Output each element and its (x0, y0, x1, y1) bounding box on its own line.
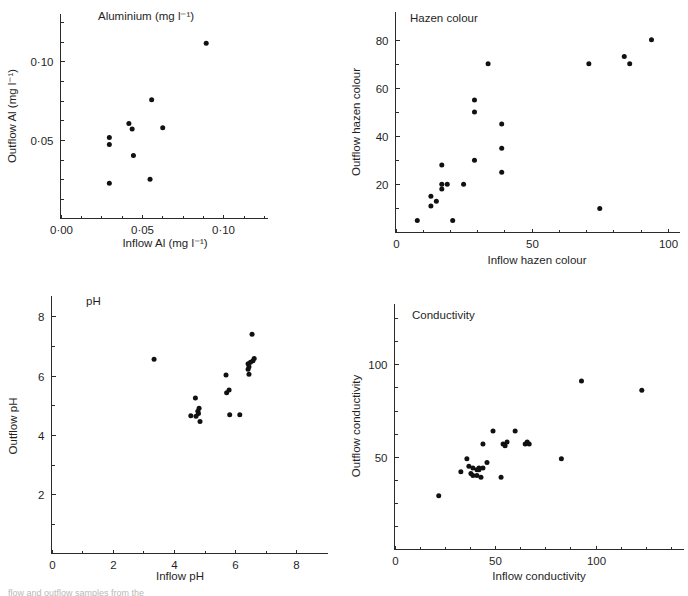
conductivity-y-ticklabels: 50100 (368, 359, 387, 464)
aluminium-axes (61, 14, 269, 219)
data-point (148, 177, 153, 182)
data-point (445, 182, 450, 187)
data-point (478, 475, 483, 480)
ph-plot: 02468 2468 pH Inflow pH Outflow pH (0, 286, 330, 586)
data-point (461, 182, 466, 187)
ph-ytick-label: 6 (38, 371, 44, 383)
aluminium-data-points (107, 41, 209, 186)
aluminium-panel-title: Aluminium (mg l⁻¹) (98, 10, 194, 22)
hazen-panel-title: Hazen colour (410, 12, 478, 24)
hazen-plot: 050100 20406080 Hazen colour Inflow haze… (344, 0, 688, 280)
aluminium-plot: 0·000·050·10 0·050·10 Aluminium (mg l⁻¹)… (0, 0, 300, 270)
ph-xtick-label: 2 (110, 559, 116, 571)
hazen-y-ticklabels: 20406080 (376, 35, 389, 191)
aluminium-x-ticks (62, 215, 265, 219)
hazen-xtick-label: 50 (526, 238, 539, 250)
data-point (499, 170, 504, 175)
data-point (193, 395, 198, 400)
conductivity-x-ticklabels: 050100 (392, 555, 606, 567)
hazen-x-ticklabels: 050100 (393, 238, 678, 250)
figure-caption: flow and outflow samples from the (8, 588, 680, 596)
panel-aluminium: 0·000·050·10 0·050·10 Aluminium (mg l⁻¹)… (0, 0, 300, 270)
ph-xtick-label: 8 (293, 559, 299, 571)
data-point (107, 135, 112, 140)
data-point (198, 419, 203, 424)
data-point (188, 413, 193, 418)
data-point (439, 187, 444, 192)
ph-x-ticklabels: 02468 (49, 559, 299, 571)
data-point (197, 406, 202, 411)
aluminium-ytick-label: 0·05 (30, 135, 53, 147)
conductivity-xtick-label: 0 (392, 555, 398, 567)
data-point (436, 493, 441, 498)
aluminium-ylabel: Outflow Al (mg l⁻¹) (6, 69, 18, 163)
data-point (627, 61, 632, 66)
aluminium-xlabel: Inflow Al (mg l⁻¹) (122, 237, 207, 249)
data-point (450, 218, 455, 223)
data-point (527, 441, 532, 446)
data-point (559, 456, 564, 461)
hazen-xtick-label: 100 (659, 238, 678, 250)
data-point (649, 37, 654, 42)
data-point (439, 182, 444, 187)
data-point (486, 61, 491, 66)
ph-xlabel: Inflow pH (156, 570, 204, 582)
conductivity-axes (395, 304, 685, 550)
data-point (597, 206, 602, 211)
hazen-x-ticks (397, 229, 669, 233)
conductivity-ytick-label: 50 (375, 452, 388, 464)
data-point (224, 373, 229, 378)
aluminium-axis-lines (61, 14, 269, 219)
aluminium-ytick-label: 0·10 (30, 56, 53, 68)
conductivity-data-points (436, 378, 644, 498)
data-point (428, 194, 433, 199)
data-point (152, 357, 157, 362)
ph-axis-lines (52, 296, 329, 554)
ph-ytick-label: 4 (38, 430, 45, 442)
conductivity-ytick-label: 100 (368, 359, 387, 371)
ph-xtick-label: 4 (171, 559, 178, 571)
data-point (499, 475, 504, 480)
data-point (252, 356, 257, 361)
data-point (204, 41, 209, 46)
data-point (491, 428, 496, 433)
data-point (415, 218, 420, 223)
data-point (484, 460, 489, 465)
aluminium-x-ticklabels: 0·000·050·10 (50, 224, 235, 236)
ph-y-ticks (52, 317, 56, 525)
data-point (480, 441, 485, 446)
data-point (130, 126, 135, 131)
ph-data-points (152, 332, 257, 424)
ph-y-ticklabels: 2468 (38, 311, 45, 501)
figure-scatter-panels: 0·000·050·10 0·050·10 Aluminium (mg l⁻¹)… (0, 0, 688, 596)
data-point (160, 125, 165, 130)
data-point (472, 109, 477, 114)
data-point (499, 146, 504, 151)
hazen-ytick-label: 80 (376, 35, 389, 47)
aluminium-y-ticks (61, 23, 65, 200)
data-point (579, 378, 584, 383)
hazen-ytick-label: 60 (376, 83, 389, 95)
data-point (107, 181, 112, 186)
data-point (131, 153, 136, 158)
data-point (639, 388, 644, 393)
data-point (250, 332, 255, 337)
conductivity-xtick-label: 100 (587, 555, 606, 567)
data-point (480, 466, 485, 471)
hazen-ytick-label: 20 (376, 179, 389, 191)
ph-axes (52, 296, 329, 554)
panel-conductivity: 050100 50100 Conductivity Inflow conduct… (344, 296, 688, 586)
hazen-ylabel: Outflow hazen colour (350, 68, 362, 176)
panel-hazen: 050100 20406080 Hazen colour Inflow haze… (344, 0, 688, 280)
data-point (107, 142, 112, 147)
data-point (237, 412, 242, 417)
data-point (126, 121, 131, 126)
aluminium-xtick-label: 0·10 (212, 224, 235, 236)
data-point (149, 97, 154, 102)
data-point (439, 163, 444, 168)
conductivity-xlabel: Inflow conductivity (492, 570, 586, 582)
conductivity-ylabel: Outflow conductivity (350, 375, 362, 478)
ph-x-ticks (53, 550, 297, 554)
data-point (458, 469, 463, 474)
conductivity-x-ticks (396, 546, 672, 550)
